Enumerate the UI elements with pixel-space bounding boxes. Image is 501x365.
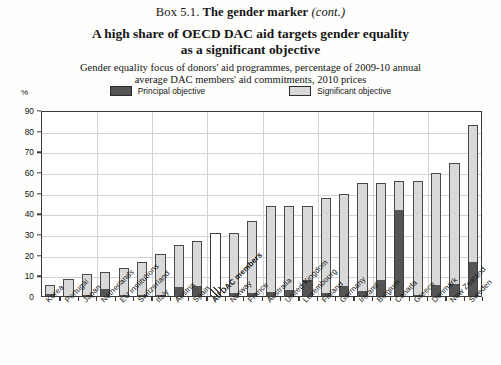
box-caption: Box 5.1. The gender marker (cont.): [0, 0, 501, 20]
bar-segment-significant: [449, 163, 459, 284]
bar-segment-significant: [339, 194, 349, 286]
bar-segment-significant: [431, 173, 441, 285]
y-axis-tick-label: 40: [4, 209, 34, 219]
y-axis-tick-label: 30: [4, 230, 34, 240]
legend-label-principal: Principal objective: [138, 86, 206, 96]
bar-segment-significant: [192, 241, 202, 285]
bar-segment-significant: [376, 183, 386, 280]
y-axis-tick-label: 50: [4, 189, 34, 199]
legend-item-significant: Significant objective: [289, 86, 391, 96]
chart-title-line1: A high share of OECD DAC aid targets gen…: [26, 26, 475, 42]
x-axis-tick-mark: [482, 297, 483, 301]
bar-belgium: [376, 183, 386, 297]
bar-segment-significant: [357, 183, 367, 290]
bar-segment-significant: [266, 206, 276, 292]
chart-subtitle-line1: Gender equality focus of donors' aid pro…: [30, 62, 471, 74]
bar-segment-significant: [468, 125, 478, 261]
y-axis-tick-label: 10: [4, 271, 34, 281]
bar-segment-significant: [413, 181, 423, 295]
bar-segment-significant: [210, 233, 220, 287]
legend-swatch-significant-icon: [289, 86, 311, 96]
bar-segment-significant: [174, 245, 184, 286]
y-axis-tick-label: 60: [4, 168, 34, 178]
y-axis-unit: %: [21, 88, 28, 97]
y-axis-tick-label: 0: [4, 292, 34, 302]
x-axis-labels: KoreaPortugalJapanNetherlandsEU institut…: [41, 298, 482, 364]
y-axis-tick-label: 90: [4, 106, 34, 116]
legend-swatch-principal-icon: [110, 86, 132, 96]
chart-title-line2: as a significant objective: [26, 42, 475, 58]
bar-series-container: [41, 111, 482, 297]
box-cont-marker: (cont.): [311, 5, 345, 19]
legend-label-significant: Significant objective: [317, 86, 391, 96]
chart-subtitle: Gender equality focus of donors' aid pro…: [0, 62, 501, 87]
figure-page: Box 5.1. The gender marker (cont.) A hig…: [0, 0, 501, 365]
legend-item-principal: Principal objective: [110, 86, 206, 96]
y-axis-tick-label: 80: [4, 127, 34, 137]
y-axis-tick-label: 20: [4, 251, 34, 261]
box-title: The gender marker: [203, 5, 309, 19]
chart-legend: Principal objective Significant objectiv…: [0, 86, 501, 96]
chart-title: A high share of OECD DAC aid targets gen…: [0, 26, 501, 57]
bar-denmark: [431, 173, 441, 297]
chart-subtitle-line2: average DAC members' aid commitments, 20…: [30, 74, 471, 86]
box-number: Box 5.1.: [156, 5, 200, 19]
y-axis: 0102030405060708090: [0, 111, 41, 297]
bar-segment-significant: [394, 181, 404, 210]
y-axis-tick-label: 70: [4, 147, 34, 157]
